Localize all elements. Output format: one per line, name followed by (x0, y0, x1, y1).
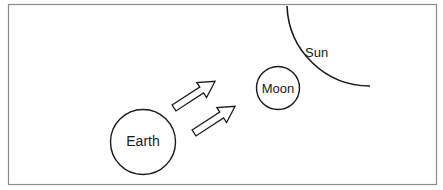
earth-label: Earth (126, 133, 159, 149)
earth-moon-sun-diagram: Sun Moon Earth (0, 0, 443, 190)
diagram-frame (9, 5, 437, 185)
sun-label: Sun (305, 45, 328, 60)
moon-label: Moon (262, 81, 295, 96)
